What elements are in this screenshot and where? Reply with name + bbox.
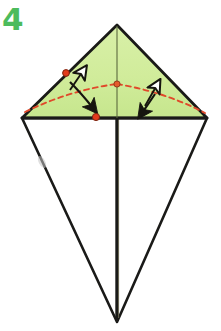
- reference-dot-lower: [92, 113, 99, 120]
- origami-diagram: [0, 0, 221, 331]
- step-number-label: 4: [2, 4, 23, 35]
- reference-dot-center: [114, 81, 120, 87]
- figure-canvas: 4: [0, 0, 221, 331]
- reference-dot-left: [63, 70, 70, 77]
- kite-upper-green-face: [22, 25, 207, 118]
- kite-lower-white-face: [22, 118, 207, 322]
